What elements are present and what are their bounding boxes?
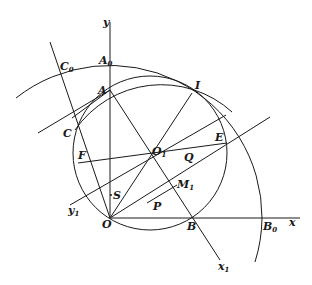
label-point-c0: C0: [60, 60, 74, 74]
label-x: x: [288, 216, 296, 229]
label-x1: x1: [217, 260, 229, 274]
label-point-f: F: [77, 149, 87, 162]
geometry-diagram: y x y1 x1 O A A0 B B0 C C0 I E F Q O1 S …: [0, 0, 312, 285]
point-s: [110, 194, 112, 196]
label-point-e: E: [214, 131, 224, 144]
label-point-c: C: [63, 127, 72, 140]
label-point-a: A: [97, 84, 107, 97]
label-point-m1: M1: [176, 178, 194, 192]
large-arc: [16, 65, 262, 262]
label-point-o: O: [102, 218, 112, 231]
x1-axis: [110, 90, 220, 260]
label-point-q: Q: [184, 151, 194, 164]
label-point-s: S: [113, 189, 121, 202]
label-y1: y1: [67, 204, 79, 218]
label-point-i: I: [194, 79, 201, 92]
label-point-b: B: [186, 220, 196, 233]
label-point-o1: O1: [152, 145, 166, 159]
segment-m1-p: [147, 185, 177, 203]
label-point-p: P: [152, 200, 162, 213]
line-o-i: [110, 93, 192, 218]
label-point-b0: B0: [262, 220, 277, 234]
